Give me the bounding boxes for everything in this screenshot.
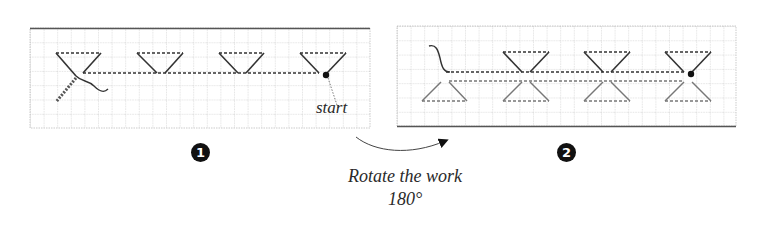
rotate-instruction: Rotate the work 180° xyxy=(330,165,480,211)
step-1-badge: 1 xyxy=(191,143,210,162)
panel-step-2 xyxy=(397,26,736,127)
grid-panel-2 xyxy=(397,26,736,126)
rotate-instruction-line1: Rotate the work xyxy=(330,165,480,188)
start-point-marker xyxy=(323,72,329,78)
rotate-instruction-line2: 180° xyxy=(330,188,480,211)
start-label: start xyxy=(316,98,347,118)
rotate-arrow-icon xyxy=(356,137,445,150)
start-point-marker xyxy=(688,71,694,77)
step-2-badge: 2 xyxy=(557,143,576,162)
